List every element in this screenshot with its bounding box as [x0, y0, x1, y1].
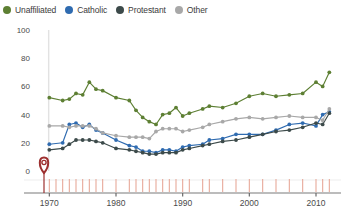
- data-point: [134, 149, 138, 153]
- data-point: [321, 123, 325, 127]
- legend-label-catholic: Catholic: [77, 5, 107, 15]
- series-group: [47, 70, 331, 156]
- data-point: [301, 92, 305, 96]
- data-point: [67, 125, 71, 129]
- data-point: [61, 124, 65, 128]
- data-point: [101, 141, 105, 145]
- data-point: [114, 147, 118, 151]
- data-point: [187, 147, 191, 151]
- legend-swatch-protestant-icon: [116, 6, 124, 14]
- data-point: [101, 89, 105, 93]
- data-point: [154, 130, 158, 134]
- data-point: [101, 131, 105, 135]
- data-point: [161, 113, 165, 117]
- data-point: [234, 101, 238, 105]
- data-point: [161, 127, 165, 131]
- data-point: [94, 87, 98, 91]
- data-point: [127, 148, 131, 152]
- data-point: [321, 113, 325, 117]
- data-point: [301, 116, 305, 120]
- data-point: [314, 116, 318, 120]
- data-point: [114, 96, 118, 100]
- series-unaffiliated: [47, 70, 331, 126]
- data-point: [234, 138, 238, 142]
- legend-item-other[interactable]: Other: [175, 5, 208, 15]
- data-point: [47, 124, 51, 128]
- data-point: [127, 135, 131, 139]
- data-point: [287, 123, 291, 127]
- data-point: [201, 107, 205, 111]
- data-point: [127, 99, 131, 103]
- data-point: [187, 128, 191, 132]
- data-point: [154, 123, 158, 127]
- map-pin-marker[interactable]: [40, 158, 48, 194]
- data-point: [181, 130, 185, 134]
- chart-legend: UnaffiliatedCatholicProtestantOther: [3, 2, 340, 18]
- data-point: [201, 144, 205, 148]
- data-point: [81, 93, 85, 97]
- data-point: [174, 151, 178, 155]
- data-point: [134, 108, 138, 112]
- data-point: [207, 142, 211, 146]
- legend-swatch-catholic-icon: [65, 6, 73, 14]
- data-point: [81, 138, 85, 142]
- data-point: [74, 92, 78, 96]
- chart-screenshot: UnaffiliatedCatholicProtestantOther 0204…: [0, 0, 343, 215]
- y-axis-group: 020406080100: [17, 26, 49, 176]
- data-point: [181, 148, 185, 152]
- data-point: [174, 106, 178, 110]
- plot-area: 020406080100 19701980199020002010: [0, 18, 343, 215]
- data-point: [147, 137, 151, 141]
- legend-item-catholic[interactable]: Catholic: [65, 5, 107, 15]
- data-point: [147, 152, 151, 156]
- data-point: [47, 148, 51, 152]
- data-point: [94, 139, 98, 143]
- data-point: [47, 96, 51, 100]
- data-point: [274, 116, 278, 120]
- data-point: [154, 152, 158, 156]
- data-point: [61, 147, 65, 151]
- data-point: [167, 127, 171, 131]
- x-tick-label-1970: 1970: [40, 198, 59, 208]
- data-point: [247, 116, 251, 120]
- y-tick-label-40: 40: [21, 111, 30, 120]
- data-point: [201, 125, 205, 129]
- data-point: [301, 121, 305, 125]
- legend-swatch-other-icon: [175, 6, 183, 14]
- data-point: [261, 92, 265, 96]
- data-point: [321, 85, 325, 89]
- y-tick-label-0: 0: [26, 167, 31, 176]
- legend-label-protestant: Protestant: [128, 5, 166, 15]
- data-point: [87, 80, 91, 84]
- data-point: [287, 114, 291, 118]
- data-point: [207, 123, 211, 127]
- data-point: [234, 117, 238, 121]
- data-point: [127, 144, 131, 148]
- data-point: [261, 132, 265, 136]
- data-point: [261, 117, 265, 121]
- line-chart-svg: 020406080100 19701980199020002010: [0, 18, 343, 215]
- x-tick-label-1980: 1980: [107, 198, 126, 208]
- data-point: [141, 151, 145, 155]
- data-point: [287, 128, 291, 132]
- data-point: [61, 141, 65, 145]
- data-point: [74, 124, 78, 128]
- data-point: [114, 138, 118, 142]
- legend-label-unaffiliated: Unaffiliated: [15, 5, 56, 15]
- data-point: [61, 99, 65, 103]
- data-point: [274, 94, 278, 98]
- legend-item-unaffiliated[interactable]: Unaffiliated: [3, 5, 56, 15]
- data-point: [174, 127, 178, 131]
- data-point: [234, 132, 238, 136]
- y-tick-label-80: 80: [21, 54, 30, 63]
- x-axis-group: 19701980199020002010: [24, 193, 341, 208]
- data-point: [247, 94, 251, 98]
- y-tick-label-60: 60: [21, 82, 30, 91]
- legend-item-protestant[interactable]: Protestant: [116, 5, 166, 15]
- data-point: [301, 125, 305, 129]
- data-point: [87, 124, 91, 128]
- data-point: [207, 104, 211, 108]
- x-tick-label-2000: 2000: [240, 198, 259, 208]
- data-point: [287, 93, 291, 97]
- data-point: [161, 151, 165, 155]
